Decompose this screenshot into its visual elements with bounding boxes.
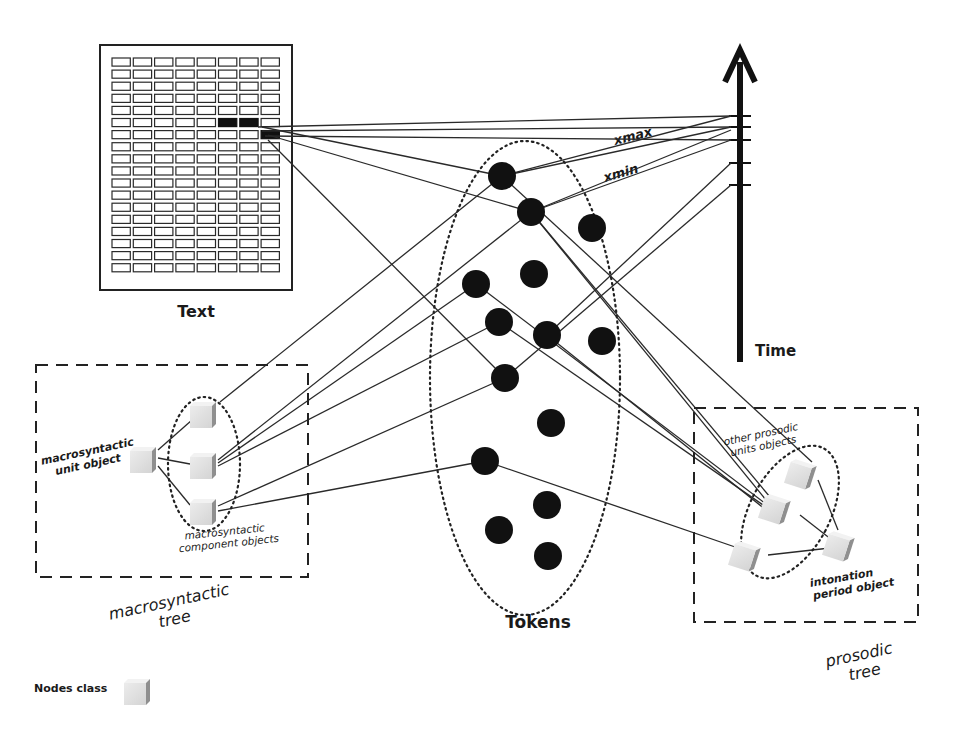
prosodic-nodes — [728, 458, 855, 573]
legend-node-icon — [124, 679, 150, 705]
text-word-cell — [261, 252, 279, 260]
text-word-cell — [112, 191, 130, 199]
text-word-cell — [240, 155, 258, 163]
text-word-cell — [261, 167, 279, 175]
text-word-cell — [176, 264, 194, 272]
text-word-cell — [133, 240, 151, 248]
text-word-cell — [155, 179, 173, 187]
text-word-cell — [133, 94, 151, 102]
prosodic-tree-label: prosodic tree — [823, 638, 898, 689]
text-word-cell — [133, 227, 151, 235]
text-word-cell — [197, 203, 215, 211]
token-node — [588, 327, 616, 355]
text-word-cell — [197, 119, 215, 127]
prosodic-unit-node — [784, 458, 817, 491]
text-word-cell — [219, 215, 237, 223]
text-word-cell — [240, 82, 258, 90]
text-word-cell — [133, 82, 151, 90]
text-word-cell — [219, 203, 237, 211]
text-word-cell — [197, 252, 215, 260]
text-word-cell — [112, 240, 130, 248]
prosodic-unit-node — [728, 540, 761, 573]
text-word-cell — [112, 167, 130, 175]
text-word-cell — [197, 143, 215, 151]
text-word-cell — [133, 252, 151, 260]
text-word-cell — [219, 167, 237, 175]
text-word-cell — [133, 215, 151, 223]
text-word-cell — [176, 252, 194, 260]
text-word-cell — [176, 191, 194, 199]
text-word-cell — [240, 106, 258, 114]
time-axis — [725, 50, 755, 362]
text-word-cell — [155, 82, 173, 90]
text-word-cell — [176, 106, 194, 114]
text-word-cell — [197, 167, 215, 175]
token-node — [485, 516, 513, 544]
text-label: Text — [177, 302, 215, 321]
text-word-cell — [176, 215, 194, 223]
text-word-cell — [219, 179, 237, 187]
token-node — [533, 321, 561, 349]
text-word-cell — [240, 58, 258, 66]
text-word-cell — [176, 240, 194, 248]
diagram-canvas: Text Time xmax xmin — [0, 0, 958, 729]
text-word-cell — [112, 94, 130, 102]
text-word-cell — [261, 106, 279, 114]
text-word-cell — [219, 264, 237, 272]
text-document — [100, 45, 292, 290]
text-word-cell — [112, 82, 130, 90]
text-word-cell — [197, 82, 215, 90]
text-word-cell — [112, 58, 130, 66]
text-word-cell — [219, 155, 237, 163]
token-node — [488, 162, 516, 190]
token-node — [517, 198, 545, 226]
text-word-cell — [197, 191, 215, 199]
text-word-cell — [133, 70, 151, 78]
text-word-cell — [176, 143, 194, 151]
macro-tree-label: macrosyntactic tree — [107, 580, 235, 642]
text-word-cell — [240, 131, 258, 139]
token-node — [537, 409, 565, 437]
text-word-cell — [133, 131, 151, 139]
text-word-cell — [219, 240, 237, 248]
text-word-cell — [112, 155, 130, 163]
text-word-cell — [112, 215, 130, 223]
text-word-cell — [155, 240, 173, 248]
token-node — [533, 491, 561, 519]
tokens-label: Tokens — [505, 612, 571, 632]
text-word-cell — [176, 179, 194, 187]
macro-component-node — [190, 453, 216, 479]
text-word-cell — [219, 70, 237, 78]
token-node — [485, 308, 513, 336]
text-word-cell — [197, 106, 215, 114]
text-word-cell — [240, 179, 258, 187]
text-word-cell — [112, 70, 130, 78]
text-word-cell — [176, 70, 194, 78]
text-word-cell — [261, 82, 279, 90]
text-word-cell — [197, 155, 215, 163]
macro-component-node — [190, 402, 216, 428]
tokens — [462, 162, 616, 570]
text-word-cell — [240, 264, 258, 272]
text-word-cell — [261, 70, 279, 78]
text-word-cell — [240, 227, 258, 235]
intonation-period-node — [822, 530, 855, 563]
text-word-cell — [112, 131, 130, 139]
text-word-cell — [219, 94, 237, 102]
text-word-cell — [219, 191, 237, 199]
text-word-cell — [240, 203, 258, 211]
text-word-cell — [261, 58, 279, 66]
text-word-cell — [197, 179, 215, 187]
text-word-cell — [219, 106, 237, 114]
text-word-cell — [133, 155, 151, 163]
text-word-cell — [197, 264, 215, 272]
text-word-cell — [176, 58, 194, 66]
text-word-cell — [133, 143, 151, 151]
token-node — [520, 260, 548, 288]
text-word-cell — [176, 227, 194, 235]
token-node — [462, 270, 490, 298]
text-word-cell — [261, 155, 279, 163]
text-word-cell — [261, 203, 279, 211]
text-word-cell — [240, 252, 258, 260]
text-word-cell — [261, 240, 279, 248]
